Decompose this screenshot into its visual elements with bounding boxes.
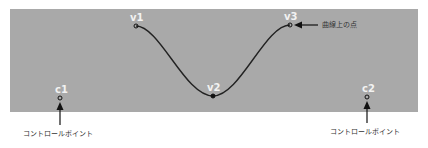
arrow-head-icon xyxy=(57,102,64,110)
control-point-c2 xyxy=(365,95,369,99)
label-c2: c2 xyxy=(362,84,375,94)
label-c1: c1 xyxy=(55,85,68,95)
annotation-control-point-left: コントロールポイント xyxy=(23,130,93,138)
bezier-curve-diagram xyxy=(0,0,428,148)
annotation-curve-point: 曲線上の点 xyxy=(322,21,357,29)
vertex-v2 xyxy=(211,94,215,98)
arrow-head-icon xyxy=(364,101,371,109)
annotation-control-point-right: コントロールポイント xyxy=(330,128,400,136)
label-v2: v2 xyxy=(207,83,220,93)
arrow-head-icon xyxy=(294,22,302,29)
control-point-c1 xyxy=(58,96,62,100)
label-v1: v1 xyxy=(130,13,143,23)
label-v3: v3 xyxy=(284,12,297,22)
